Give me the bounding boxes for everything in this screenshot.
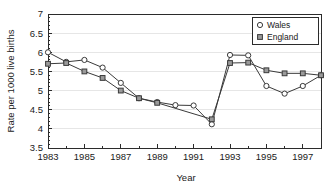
x-tick-label: 1989 — [147, 151, 168, 162]
y-tick-label: 7 — [38, 8, 43, 19]
y-tick-label: 4 — [38, 123, 43, 134]
x-axis-tick-labels: 19831985198719891991199319951997 — [37, 151, 313, 162]
data-point-marker — [118, 88, 123, 93]
y-tick-label: 6.5 — [30, 28, 43, 39]
x-axis-title: Year — [176, 172, 195, 183]
data-point-marker — [264, 68, 269, 73]
x-tick-label: 1993 — [219, 151, 240, 162]
data-point-marker — [227, 52, 232, 57]
legend-label-wales: Wales — [267, 20, 290, 30]
y-axis-ticks — [48, 14, 52, 148]
data-point-marker — [191, 103, 196, 108]
y-axis-tick-labels: 3.544.555.566.57 — [30, 8, 43, 153]
data-series — [45, 50, 323, 127]
data-point-marker — [228, 61, 233, 66]
data-point-marker — [209, 122, 214, 127]
data-point-marker — [82, 69, 87, 74]
data-point-marker — [319, 73, 324, 78]
legend-marker-wales — [257, 22, 262, 27]
data-point-marker — [45, 50, 50, 55]
series-wales — [45, 50, 323, 127]
x-tick-label: 1987 — [110, 151, 131, 162]
data-point-marker — [209, 117, 214, 122]
y-axis-title: Rate per 1000 live births — [5, 29, 16, 132]
legend-label-england: England — [267, 32, 298, 42]
data-point-marker — [300, 71, 305, 76]
data-point-marker — [46, 61, 51, 66]
data-point-marker — [64, 61, 69, 66]
data-point-marker — [155, 100, 160, 105]
data-point-marker — [264, 83, 269, 88]
y-tick-label: 5 — [38, 85, 43, 96]
y-tick-label: 6 — [38, 47, 43, 58]
line-chart: 3.544.555.566.57 19831985198719891991199… — [0, 0, 334, 187]
data-point-marker — [100, 76, 105, 81]
legend-marker-england — [258, 35, 263, 40]
series-line-wales — [48, 52, 321, 124]
data-point-marker — [118, 80, 123, 85]
data-point-marker — [137, 96, 142, 101]
y-tick-label: 4.5 — [30, 104, 43, 115]
x-tick-label: 1983 — [37, 151, 58, 162]
y-tick-label: 5.5 — [30, 66, 43, 77]
data-point-marker — [246, 60, 251, 65]
gridlines — [48, 33, 321, 129]
chart-legend: WalesEngland — [252, 17, 318, 44]
chart-figure: 3.544.555.566.57 19831985198719891991199… — [0, 0, 334, 187]
data-point-marker — [282, 91, 287, 96]
x-tick-label: 1985 — [74, 151, 95, 162]
data-point-marker — [82, 57, 87, 62]
data-point-marker — [282, 71, 287, 76]
data-point-marker — [173, 103, 178, 108]
x-axis-ticks — [48, 144, 321, 148]
x-tick-label: 1995 — [256, 151, 277, 162]
x-tick-label: 1997 — [292, 151, 313, 162]
data-point-marker — [300, 83, 305, 88]
data-point-marker — [246, 53, 251, 58]
x-tick-label: 1991 — [183, 151, 204, 162]
data-point-marker — [100, 65, 105, 70]
